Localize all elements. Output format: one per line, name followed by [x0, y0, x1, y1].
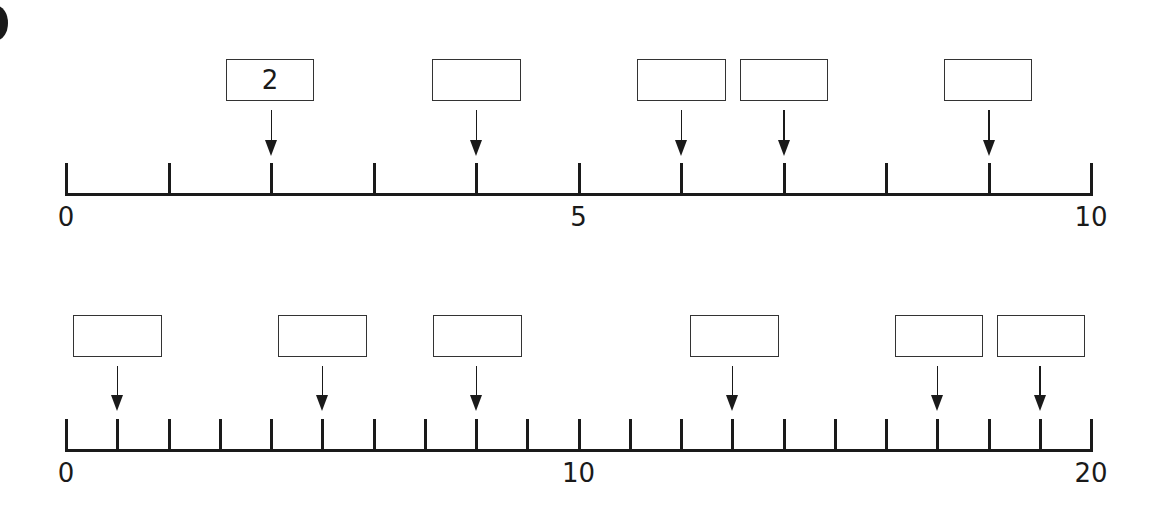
arrow-head-icon [111, 395, 123, 411]
arrow-head-icon [675, 140, 687, 156]
answer-box[interactable] [944, 59, 1032, 101]
arrow-down-icon [783, 110, 785, 142]
arrow-head-icon [726, 395, 738, 411]
arrow-down-icon [937, 366, 939, 397]
tick-mark [680, 419, 683, 452]
tick-mark [629, 419, 632, 452]
arrow-down-icon [117, 366, 119, 397]
arrow-down-icon [322, 366, 324, 397]
tick-mark [578, 163, 581, 196]
tick-mark [475, 163, 478, 196]
tick-mark [680, 163, 683, 196]
arrow-head-icon [1034, 395, 1046, 411]
arrow-down-icon [271, 110, 273, 142]
tick-mark [988, 163, 991, 196]
tick-mark [373, 163, 376, 196]
answer-box[interactable] [997, 315, 1085, 357]
tick-mark [219, 419, 222, 452]
tick-mark [373, 419, 376, 452]
tick-mark [1090, 163, 1093, 196]
answer-box[interactable] [433, 315, 522, 357]
tick-label: 5 [570, 204, 587, 230]
tick-label: 0 [58, 204, 75, 230]
tick-mark [885, 419, 888, 452]
tick-mark [321, 419, 324, 452]
arrow-down-icon [476, 110, 478, 142]
arrow-head-icon [778, 140, 790, 156]
answer-box[interactable] [690, 315, 779, 357]
tick-mark [988, 419, 991, 452]
arrow-down-icon [1039, 366, 1041, 397]
tick-mark [270, 163, 273, 196]
answer-box[interactable] [740, 59, 828, 101]
arrow-down-icon [476, 366, 478, 397]
tick-mark [834, 419, 837, 452]
arrow-head-icon [265, 140, 277, 156]
answer-box[interactable]: 2 [226, 59, 314, 101]
arrow-head-icon [316, 395, 328, 411]
tick-mark [783, 419, 786, 452]
tick-mark [885, 163, 888, 196]
arrow-head-icon [931, 395, 943, 411]
tick-mark [1039, 419, 1042, 452]
tick-label: 20 [1074, 460, 1107, 486]
tick-mark [116, 419, 119, 452]
tick-label: 10 [562, 460, 595, 486]
arrow-down-icon [988, 110, 990, 142]
arrow-down-icon [681, 110, 683, 142]
tick-mark [578, 419, 581, 452]
tick-label: 10 [1074, 204, 1107, 230]
answer-box[interactable] [73, 315, 162, 357]
tick-mark [783, 163, 786, 196]
tick-mark [936, 419, 939, 452]
tick-mark [424, 419, 427, 452]
tick-mark [731, 419, 734, 452]
tick-mark [526, 419, 529, 452]
tick-mark [168, 163, 171, 196]
arrow-head-icon [470, 395, 482, 411]
answer-box[interactable] [895, 315, 983, 357]
arrow-head-icon [983, 140, 995, 156]
tick-label: 0 [58, 460, 75, 486]
tick-mark [475, 419, 478, 452]
answer-box[interactable] [278, 315, 367, 357]
tick-mark [65, 419, 68, 452]
tick-mark [270, 419, 273, 452]
tick-mark [1090, 419, 1093, 452]
answer-box[interactable] [432, 59, 521, 101]
corner-label-fragment [0, 6, 8, 40]
arrow-head-icon [470, 140, 482, 156]
tick-mark [65, 163, 68, 196]
arrow-down-icon [732, 366, 734, 397]
tick-mark [168, 419, 171, 452]
answer-box[interactable] [637, 59, 726, 101]
